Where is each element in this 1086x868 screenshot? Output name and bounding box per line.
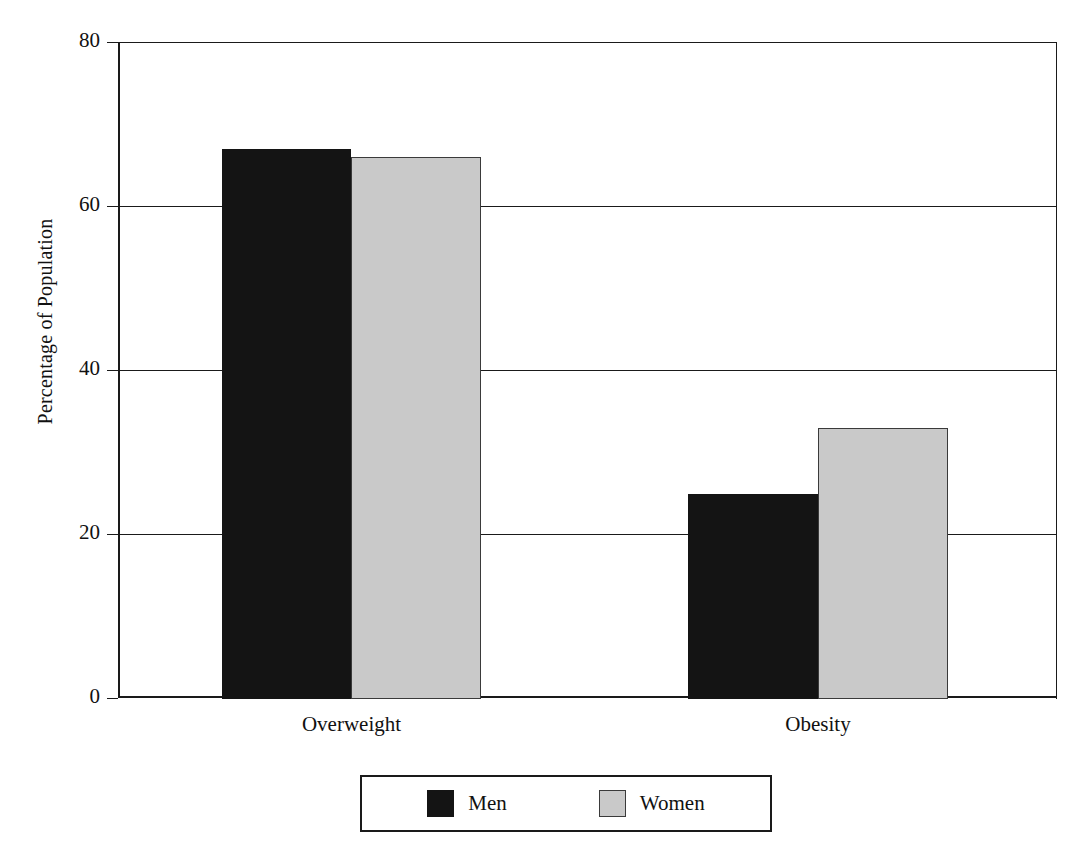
- category-label-overweight: Overweight: [222, 712, 481, 737]
- y-tick-mark-40: [107, 370, 118, 371]
- legend: Men Women: [360, 775, 772, 832]
- y-tick-mark-60: [107, 206, 118, 207]
- legend-swatch-men-icon: [427, 790, 454, 817]
- y-tick-mark-80: [107, 42, 118, 43]
- bar-obesity-men: [688, 494, 818, 699]
- y-tick-label-40: 40: [14, 358, 100, 379]
- y-axis-title: Percentage of Population: [34, 192, 57, 452]
- y-tick-mark-0: [107, 698, 118, 699]
- category-label-obesity: Obesity: [688, 712, 948, 737]
- bar-overweight-men: [222, 149, 351, 699]
- bar-overweight-women: [351, 157, 481, 699]
- legend-label-women: Women: [640, 791, 705, 816]
- gridline-80: [118, 42, 1057, 43]
- y-tick-label-20: 20: [14, 522, 100, 543]
- y-tick-label-0: 0: [14, 686, 100, 707]
- y-tick-label-80: 80: [14, 30, 100, 51]
- legend-item-women[interactable]: Women: [599, 790, 705, 817]
- bar-obesity-women: [818, 428, 948, 699]
- legend-label-men: Men: [468, 791, 507, 816]
- y-tick-mark-20: [107, 534, 118, 535]
- bar-chart-figure: Percentage of Population 80 60 40 20 0 O…: [0, 0, 1086, 868]
- y-tick-label-60: 60: [14, 194, 100, 215]
- legend-swatch-women-icon: [599, 790, 626, 817]
- legend-item-men[interactable]: Men: [427, 790, 507, 817]
